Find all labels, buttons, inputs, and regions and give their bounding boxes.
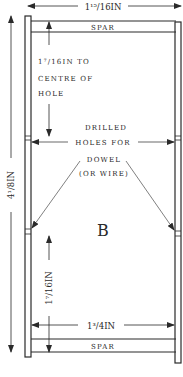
left-upright (25, 16, 31, 357)
top-width-label: 1¹⁵/16IN (85, 2, 122, 12)
inner-width-label: 1³/4IN (87, 321, 115, 331)
drilled-line2: HOLES FOR (75, 139, 130, 147)
hole-offset-line3: HOLE (38, 90, 64, 98)
frame-diagram: 1¹⁵/16IN SPAR 1⁷/16IN TO CENTRE OF HOLE … (0, 0, 183, 377)
overall-height-dimension: 4¹/8IN (6, 16, 16, 352)
top-spar: SPAR (31, 21, 176, 32)
lower-hole-offset-label: 1⁷/16IN (44, 271, 54, 305)
overall-height-label: 4¹/8IN (6, 171, 16, 199)
panel-letter: B (97, 221, 109, 240)
top-width-dimension: 1¹⁵/16IN (28, 2, 181, 12)
hole-offset-dimension: 1⁷/16IN TO CENTRE OF HOLE (38, 22, 93, 136)
hole-offset-line1: 1⁷/16IN TO (38, 58, 90, 66)
bottom-spar-label: SPAR (91, 343, 115, 351)
drilled-line3: DOWEL (87, 156, 121, 164)
drilled-line4: (OR WIRE) (79, 170, 129, 178)
inner-width-dimension: 1³/4IN (32, 321, 174, 331)
lower-hole-offset-dimension: 1⁷/16IN (44, 236, 54, 352)
hole-offset-line2: CENTRE OF (38, 75, 93, 83)
right-upright (175, 22, 181, 363)
bottom-spar: SPAR (31, 339, 176, 352)
top-spar-label: SPAR (91, 24, 115, 32)
drilled-line1: DRILLED (85, 124, 127, 132)
drilled-holes-callout: DRILLED HOLES FOR DOWEL (OR WIRE) (32, 124, 174, 230)
